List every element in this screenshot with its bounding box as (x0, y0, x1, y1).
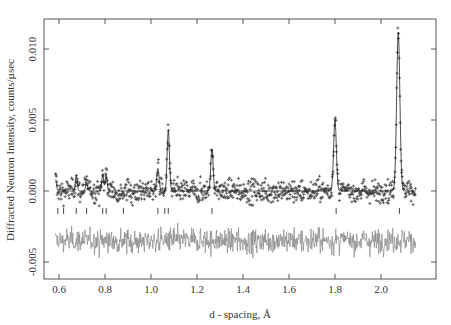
x-tick-label: 0.6 (52, 283, 66, 295)
calculated-curve (56, 32, 416, 191)
x-tick-label: 1.0 (144, 283, 158, 295)
x-tick-label: 0.8 (98, 283, 112, 295)
axes: 0.60.81.01.21.41.61.82.0-0.0050.0000.005… (26, 19, 436, 295)
difference-curve (56, 223, 416, 258)
y-tick-label: -0.005 (26, 247, 38, 276)
y-tick-label: 0.000 (26, 178, 38, 203)
x-tick-label: 1.8 (328, 283, 342, 295)
y-axis-title: Diffracted Neutron Intensity, counts/µse… (4, 59, 16, 241)
y-tick-label: 0.005 (26, 107, 38, 132)
x-axis-title: d - spacing, Å (209, 308, 271, 320)
x-tick-label: 2.0 (374, 283, 388, 295)
y-tick-label: 0.010 (26, 36, 38, 61)
x-tick-label: 1.4 (236, 283, 250, 295)
diffraction-chart: 0.60.81.01.21.41.61.82.0-0.0050.0000.005… (0, 0, 451, 325)
reflection-ticks (58, 208, 400, 214)
x-tick-label: 1.2 (190, 283, 204, 295)
x-tick-label: 1.6 (282, 283, 296, 295)
observed-points (54, 26, 417, 207)
